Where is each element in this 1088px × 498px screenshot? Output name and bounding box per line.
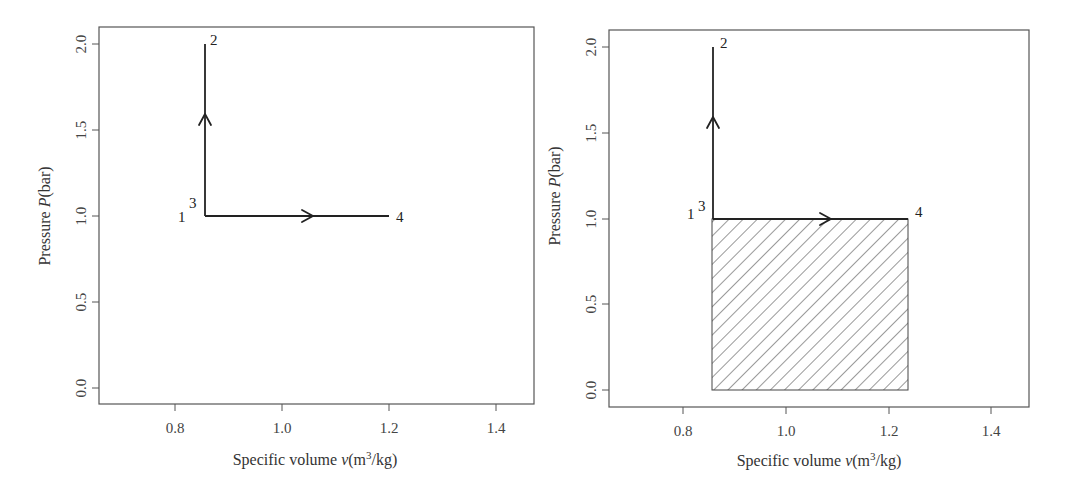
process-path <box>707 47 908 225</box>
y-tick-label: 1.0 <box>73 207 89 226</box>
point-label-3: 3 <box>189 195 197 211</box>
point-label-1: 1 <box>687 206 695 222</box>
y-tick-label: 1.5 <box>583 124 599 143</box>
point-label-2: 2 <box>210 32 218 48</box>
y-tick-label: 0.0 <box>583 381 599 400</box>
y-tick-label: 1.0 <box>583 210 599 229</box>
y-axis: 2.0 1.5 1.0 0.5 0.0 Pressure P(bar) <box>546 38 609 400</box>
x-tick-label: 0.8 <box>166 420 185 436</box>
x-tick-label: 1.4 <box>487 420 506 436</box>
y-tick-label: 0.5 <box>583 295 599 314</box>
y-axis: 2.0 1.5 1.0 0.5 0.0 Pressure P(bar) <box>36 35 99 398</box>
point-label-3: 3 <box>698 198 706 214</box>
y-tick-label: 0.0 <box>73 379 89 398</box>
point-label-1: 1 <box>178 209 186 225</box>
x-axis: 0.8 1.0 1.2 1.4 Specific volume v(m3/kg) <box>674 407 1001 470</box>
x-axis-label: Specific volume v(m3/kg) <box>233 449 398 469</box>
point-label-4: 4 <box>915 204 923 220</box>
x-axis-label: Specific volume v(m3/kg) <box>737 450 902 470</box>
y-axis-label: Pressure P(bar) <box>546 146 564 245</box>
x-tick-label: 1.2 <box>380 420 399 436</box>
y-tick-label: 1.5 <box>73 121 89 140</box>
process-path <box>199 44 389 222</box>
point-label-4: 4 <box>396 209 404 225</box>
work-area-hatched <box>712 219 908 390</box>
left-plot: 2.0 1.5 1.0 0.5 0.0 Pressure P(bar) 0.8 … <box>36 27 534 469</box>
x-tick-label: 1.4 <box>982 423 1001 439</box>
point-label-2: 2 <box>720 35 728 51</box>
x-tick-label: 1.2 <box>880 423 899 439</box>
right-plot: 2.0 1.5 1.0 0.5 0.0 Pressure P(bar) 0.8 … <box>546 30 1029 470</box>
y-tick-label: 2.0 <box>73 35 89 54</box>
figure: 2.0 1.5 1.0 0.5 0.0 Pressure P(bar) 0.8 … <box>0 0 1088 498</box>
y-tick-label: 0.5 <box>73 293 89 312</box>
x-axis: 0.8 1.0 1.2 1.4 Specific volume v(m3/kg) <box>166 404 506 469</box>
y-axis-label: Pressure P(bar) <box>36 166 54 265</box>
x-tick-label: 1.0 <box>273 420 292 436</box>
x-tick-label: 1.0 <box>777 423 796 439</box>
x-tick-label: 0.8 <box>674 423 693 439</box>
y-tick-label: 2.0 <box>583 38 599 57</box>
